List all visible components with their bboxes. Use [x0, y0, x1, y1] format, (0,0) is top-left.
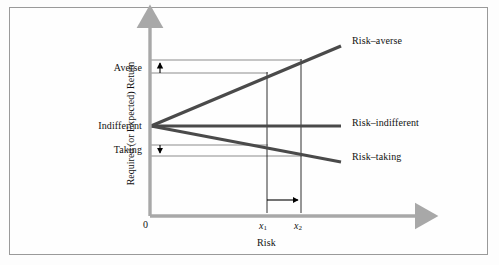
figure-canvas: Required (or Expected) Return Averse Ind… — [0, 0, 499, 265]
drop-lines — [267, 59, 301, 213]
series-label-risk-taking: Risk–taking — [352, 151, 401, 162]
x-tick-x2: x2 — [294, 220, 302, 234]
diagram-svg — [0, 0, 499, 265]
x-axis-label: Risk — [257, 237, 276, 248]
origin-label: 0 — [143, 219, 148, 230]
x-tick-x1: x1 — [259, 220, 267, 234]
line-risk-taking — [151, 126, 341, 162]
x-tick-x2-sub: 2 — [299, 224, 303, 232]
series-label-risk-averse: Risk–averse — [352, 35, 402, 46]
series-label-risk-indifferent: Risk–indifferent — [352, 117, 419, 128]
y-marker-taking: Taking — [90, 144, 142, 155]
x-tick-x1-sub: 1 — [264, 224, 268, 232]
y-marker-indifferent: Indifferent — [80, 120, 142, 131]
y-marker-averse: Averse — [90, 62, 142, 73]
line-risk-averse — [151, 46, 341, 126]
